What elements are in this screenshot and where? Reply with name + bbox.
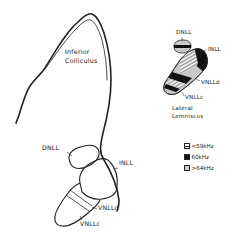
label-inll: INLL xyxy=(119,160,133,166)
inset-title-2: Lemniscus xyxy=(172,114,203,120)
inset-label-vnllc: VNLLc xyxy=(185,95,203,101)
black-swatch-icon xyxy=(184,154,190,160)
label-vnlld: VNLLd xyxy=(98,205,119,211)
inferior-colliculus-outline xyxy=(16,14,119,211)
main-nuclei xyxy=(55,145,117,226)
inll-shape xyxy=(80,159,118,200)
inset-label-inll: INLL xyxy=(208,47,221,53)
inset-diagram xyxy=(164,40,208,95)
label-inferior-colliculus-1: Inferior xyxy=(65,49,90,55)
striped-swatch-icon xyxy=(184,143,190,149)
inset-label-dnll: DNLL xyxy=(176,30,192,36)
stippled-swatch-icon xyxy=(184,165,190,171)
legend-label: >64kHz xyxy=(192,165,214,171)
legend-label: <59kHz xyxy=(192,143,214,149)
frequency-legend: <59kHz 60kHz >64kHz xyxy=(184,140,214,173)
dnll-shape xyxy=(69,145,99,168)
legend-label: 60kHz xyxy=(192,154,210,160)
inset-title-1: Lateral xyxy=(172,106,193,112)
legend-item-high: >64kHz xyxy=(184,162,214,173)
legend-item-mid: 60kHz xyxy=(184,151,214,162)
label-inferior-colliculus-2: Colliculus xyxy=(65,58,97,64)
label-dnll: DNLL xyxy=(42,145,59,151)
label-vnllc: VNLLc xyxy=(80,221,100,227)
inset-dnll xyxy=(174,40,191,53)
legend-item-low: <59kHz xyxy=(184,140,214,151)
inset-body xyxy=(164,49,208,95)
inset-label-vnlld: VNLLd xyxy=(201,80,220,86)
